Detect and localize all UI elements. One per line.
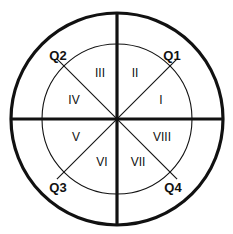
sector-label-ii: II [132, 67, 139, 79]
diagram-strokes [11, 13, 223, 225]
diagram-svg [0, 0, 233, 234]
quadrant-label-q3: Q3 [49, 181, 66, 194]
diagram-canvas: Q1Q2Q3Q4 IIIIIIIVVVIVIIVIII [0, 0, 233, 234]
quadrant-label-q1: Q1 [163, 49, 180, 62]
quadrant-label-q4: Q4 [164, 181, 181, 194]
sector-label-viii: VIII [153, 131, 171, 143]
sector-label-iii: III [95, 67, 105, 79]
sector-label-v: V [72, 131, 80, 143]
sector-label-vii: VII [131, 156, 146, 168]
quadrant-label-q2: Q2 [49, 49, 66, 62]
sector-label-vi: VI [96, 156, 107, 168]
sector-label-iv: IV [68, 94, 79, 106]
sector-label-i: I [159, 94, 162, 106]
